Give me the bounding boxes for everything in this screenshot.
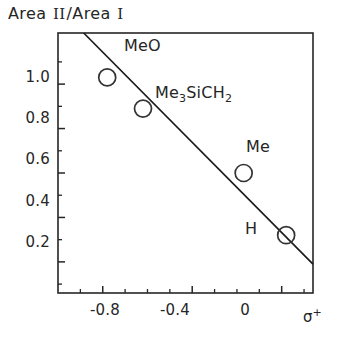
axis-frame (58, 33, 313, 293)
fit-line (84, 33, 313, 264)
data-point-me3sich2 (135, 100, 152, 117)
data-points-group (99, 69, 295, 244)
plot-frame (58, 33, 313, 293)
data-point-h (278, 227, 295, 244)
chart-figure: Area II/Area I 1.0 0.8 0.6 0.4 0.2 -0.8 … (0, 0, 348, 337)
plot-area (0, 0, 348, 337)
data-point-me (235, 165, 252, 182)
data-point-meo (99, 69, 116, 86)
axis-ticks (58, 62, 304, 293)
fit-line-group (84, 33, 313, 264)
